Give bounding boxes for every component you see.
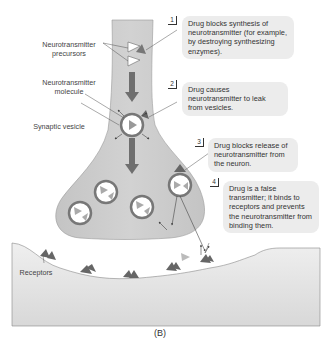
callout-1: Drug blocks synthesis of neurotransmitte…: [182, 16, 294, 59]
panel-label: (B): [154, 328, 166, 338]
callout-4: Drug is a false transmitter; it binds to…: [223, 181, 319, 233]
callout-3: Drug blocks release of neurotransmitter …: [208, 138, 298, 172]
callout-number-2: 2: [168, 80, 177, 89]
label-receptors: Receptors: [16, 268, 56, 277]
callout-number-4: 4: [210, 178, 219, 187]
callout-number-1: 1: [168, 16, 177, 25]
label-precursors: Neurotransmitter precursors: [34, 40, 104, 58]
callout-2: Drug causes neurotransmitter to leak fro…: [182, 82, 288, 116]
label-vesicle: Synaptic vesicle: [24, 122, 94, 131]
callout-number-3: 3: [195, 138, 204, 147]
label-molecule: Neurotransmitter molecule: [34, 78, 104, 96]
postsynaptic-neuron: [12, 243, 320, 326]
